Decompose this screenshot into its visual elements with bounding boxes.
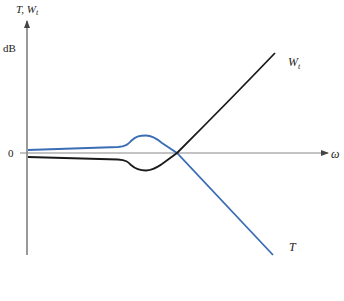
y-unit-label: dB [3, 42, 16, 54]
curve-label-wt: Wt [288, 55, 301, 71]
curve-label-t: T [289, 240, 297, 254]
y-axis-label: T, Wt [16, 3, 39, 17]
bode-plot: T, Wt dB 0 ω Wt T [0, 0, 344, 301]
x-axis-label: ω [331, 147, 339, 161]
zero-label: 0 [8, 147, 14, 159]
